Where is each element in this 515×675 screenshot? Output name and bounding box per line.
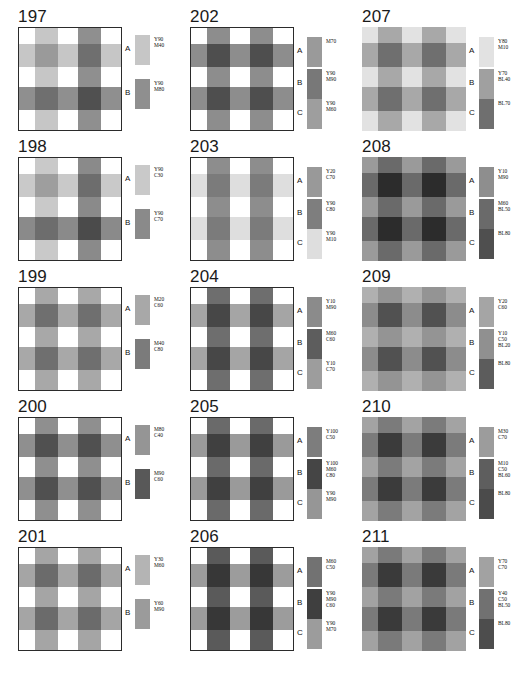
legend-label: Y40C50BL50 xyxy=(498,589,510,609)
legend-color-chip xyxy=(479,359,494,389)
pattern-cell xyxy=(230,548,250,564)
pattern-cell xyxy=(35,607,59,631)
legend-entry: M60C60 xyxy=(307,329,336,359)
legend-entry: Y90M40 xyxy=(135,35,164,65)
pattern-cell xyxy=(78,327,102,347)
pattern-cell xyxy=(273,67,293,87)
pattern-cell xyxy=(19,630,35,650)
pattern-cell xyxy=(362,241,378,261)
axis-letters: ABC xyxy=(466,287,479,391)
check-pattern xyxy=(362,417,466,521)
plate-body: ABCY70C70Y40C50BL50BL80 xyxy=(344,547,505,651)
pattern-row xyxy=(191,110,293,130)
pattern-cell xyxy=(422,197,446,217)
pattern-cell xyxy=(78,28,102,44)
pattern-row xyxy=(191,197,293,217)
legend-entry: Y90C70 xyxy=(135,209,163,239)
pattern-cell xyxy=(422,477,446,501)
pattern-cell xyxy=(362,433,378,457)
plate-body: ABCM30C70M10C50BL60BL80 xyxy=(344,417,505,521)
axis-letter-b: B xyxy=(297,209,302,217)
legend-color-chip xyxy=(135,599,150,629)
axis-letter-b: B xyxy=(469,209,474,217)
pattern-cell xyxy=(446,457,466,477)
pattern-cell xyxy=(207,434,231,458)
pattern-cell xyxy=(58,158,78,174)
pattern-cell xyxy=(422,67,446,87)
legend-color-chip xyxy=(135,209,150,239)
pattern-cell xyxy=(422,417,446,433)
legend-entry: Y70C70 xyxy=(479,557,507,587)
pattern-cell xyxy=(191,587,207,607)
axis-letters: AB xyxy=(122,287,135,391)
legend-entry: Y10M90 xyxy=(307,297,336,327)
pattern-cell xyxy=(78,174,102,198)
pattern-cell xyxy=(101,418,121,434)
pattern-cell xyxy=(78,418,102,434)
pattern-cell xyxy=(207,28,231,44)
pattern-cell xyxy=(422,287,446,303)
pattern-row xyxy=(191,217,293,241)
pattern-cell xyxy=(191,197,207,217)
pattern-cell xyxy=(446,563,466,587)
pattern-cell xyxy=(362,607,378,631)
pattern-cell xyxy=(35,28,59,44)
pattern-cell xyxy=(250,548,274,564)
legend-entry: M20C60 xyxy=(135,295,164,325)
pattern-row xyxy=(191,174,293,198)
pattern-row xyxy=(19,174,121,198)
legend-label-line: BL80 xyxy=(498,620,510,626)
legend-label: M60BL50 xyxy=(498,199,510,212)
pattern-cell xyxy=(422,347,446,371)
legend-label: M40C80 xyxy=(154,339,164,352)
legend-entry: BL80 xyxy=(479,619,510,649)
pattern-cell xyxy=(58,87,78,111)
axis-letter-a: A xyxy=(469,47,474,55)
pattern-cell xyxy=(35,87,59,111)
pattern-cell xyxy=(78,67,102,87)
pattern-cell xyxy=(378,631,402,651)
legend-label: M10C50BL60 xyxy=(498,459,510,479)
legend-label-line: BL20 xyxy=(498,342,510,348)
pattern-cell xyxy=(446,327,466,347)
legend-entry: Y90M90C60 xyxy=(307,589,336,619)
pattern-row xyxy=(19,87,121,111)
pattern-cell xyxy=(101,288,121,304)
plate-number: 208 xyxy=(362,138,505,155)
pattern-row xyxy=(362,587,466,607)
pattern-row xyxy=(191,327,293,347)
pattern-cell xyxy=(378,303,402,327)
pattern-cell xyxy=(402,347,422,371)
pattern-cell xyxy=(101,217,121,241)
plate-body: ABCY100C50Y100M60C80Y90M90 xyxy=(172,417,344,521)
pattern-cell xyxy=(402,217,422,241)
pattern-cell xyxy=(58,607,78,631)
pattern-cell xyxy=(58,457,78,477)
legend-entry: Y90M80 xyxy=(135,79,164,109)
plate-number: 209 xyxy=(362,268,505,285)
pattern-row xyxy=(362,417,466,433)
plate-number: 203 xyxy=(190,138,344,155)
pattern-cell xyxy=(273,28,293,44)
pattern-cell xyxy=(273,418,293,434)
pattern-cell xyxy=(58,587,78,607)
legend-entry: Y80M10 xyxy=(479,37,508,67)
pattern-cell xyxy=(378,197,402,217)
pattern-cell xyxy=(230,158,250,174)
pattern-cell xyxy=(191,548,207,564)
legend-label-line: BL50 xyxy=(498,206,510,212)
pattern-cell xyxy=(101,548,121,564)
legend-color-chip xyxy=(479,329,494,359)
pattern-row xyxy=(19,110,121,130)
legend-color-chip xyxy=(307,37,322,67)
legend-entry: Y90M70 xyxy=(307,619,336,649)
plate-number: 205 xyxy=(190,398,344,415)
legend-label: Y100M60C80 xyxy=(326,459,338,479)
pattern-cell xyxy=(101,370,121,390)
pattern-cell xyxy=(191,44,207,68)
legend-entry: Y90M10 xyxy=(307,229,336,259)
legend-color-chip xyxy=(307,427,322,457)
pattern-cell xyxy=(191,110,207,130)
pattern-cell xyxy=(422,217,446,241)
pattern-cell xyxy=(230,217,250,241)
